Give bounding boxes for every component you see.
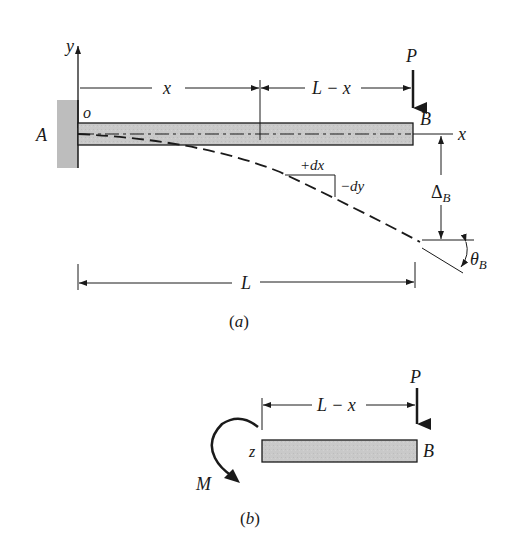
dim-l-minus-x-label: L − x [311,78,351,98]
figure-a: A y o x L − x P B x +dx −dy Δ [35,36,487,331]
dim-b-l-minus-x-label: L − x [316,395,356,415]
deflection-label: ΔB [431,182,451,205]
moment-label-m: M [195,474,212,494]
load-label-p: P [405,46,417,66]
dy-label: −dy [340,178,365,194]
dx-label: +dx [300,157,325,173]
support-label-a: A [35,125,48,145]
free-end-label-b: B [420,109,431,129]
slope-label: θB [470,249,487,272]
tangent-line [422,248,463,273]
section-label-z: z [248,443,256,460]
figure-b: L − x P z B M (b) [195,367,434,528]
caption-a: (a) [229,312,249,331]
slope-arc [461,242,467,267]
load-label-p-b: P [409,367,421,387]
x-axis-label: x [457,124,466,144]
origin-label: o [83,104,91,121]
dim-l-label: L [240,273,251,293]
beam-segment-b [262,440,417,462]
deflection-curve [78,134,420,242]
fixed-wall-support [57,100,78,168]
dim-x-label: x [162,78,171,98]
free-end-label-b-b: B [423,441,434,461]
caption-b: (b) [240,509,260,528]
cantilever-beam-diagram: A y o x L − x P B x +dx −dy Δ [0,0,526,557]
y-axis-label: y [64,36,74,56]
